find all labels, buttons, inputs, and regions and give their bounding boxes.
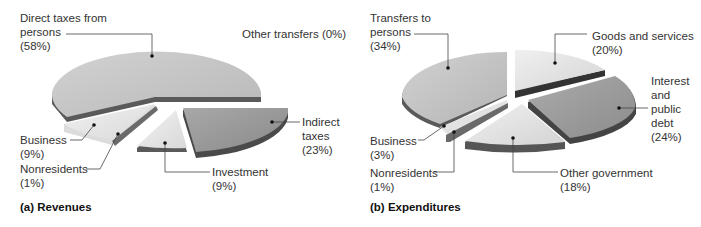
label-line: persons [370,25,431,39]
label-line: persons [20,25,107,39]
label-business: Business (9%) [20,133,67,161]
label-line: (18%) [560,180,653,194]
label-line: Other government [560,166,653,180]
label-interest-debt: Interest and public debt (24%) [651,74,689,144]
label-line: Goods and services [592,29,694,43]
label-indirect-taxes: Indirect taxes (23%) [302,115,340,157]
label-line: (23%) [302,143,340,157]
label-line: Transfers to [370,11,431,25]
expenditures-chart: Transfers to persons (34%) Goods and ser… [350,0,700,227]
label-line: debt [651,116,689,130]
label-direct-taxes: Direct taxes from persons (58%) [20,11,107,53]
label-other-government: Other government (18%) [560,166,653,194]
label-line: (9%) [20,147,67,161]
label-line: Nonresidents [20,162,88,176]
label-line: Nonresidents [370,166,438,180]
label-line: (1%) [20,176,88,190]
revenues-caption: (a) Revenues [20,201,92,213]
slice-indirect-taxes [183,108,288,158]
label-line: (1%) [370,180,438,194]
label-line: (9%) [212,179,268,193]
revenues-chart: Direct taxes from persons (58%) Other tr… [0,0,350,227]
label-line: Business [20,133,67,147]
label-investment: Investment (9%) [212,165,268,193]
expenditures-caption: (b) Expenditures [370,201,461,213]
label-business: Business (3%) [370,134,417,162]
label-nonresidents: Nonresidents (1%) [20,162,88,190]
label-goods-and-services: Goods and services (20%) [592,29,694,57]
label-nonresidents: Nonresidents (1%) [370,166,438,194]
label-line: (3%) [370,148,417,162]
label-line: Indirect [302,115,340,129]
label-line: Business [370,134,417,148]
label-line: Interest [651,74,689,88]
label-line: (34%) [370,39,431,53]
label-line: (58%) [20,39,107,53]
label-line: (20%) [592,43,694,57]
label-line: and [651,88,689,102]
label-line: Direct taxes from [20,11,107,25]
label-other-transfers: Other transfers (0%) [242,27,346,41]
label-line: public [651,102,689,116]
label-line: taxes [302,129,340,143]
label-line: Investment [212,165,268,179]
label-line: (24%) [651,130,689,144]
label-transfers-to-persons: Transfers to persons (34%) [370,11,431,53]
